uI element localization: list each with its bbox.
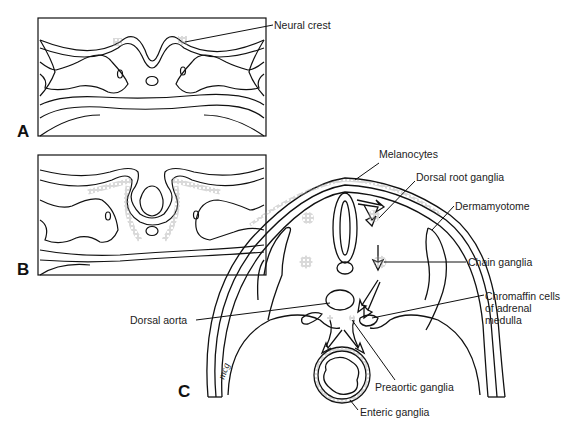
label-melanocytes: Melanocytes	[379, 148, 438, 160]
label-enteric-ganglia: Enteric ganglia	[360, 406, 429, 418]
panel-b-drawing	[38, 155, 266, 275]
label-chromaffin-line-2: of adrenal	[485, 302, 560, 314]
neural-crest-diagram: mcg	[0, 0, 582, 437]
label-chromaffin-line-3: medulla	[485, 314, 560, 326]
label-chromaffin-cells: Chromaffin cells of adrenal medulla	[485, 290, 560, 326]
neural-crest-leader	[185, 25, 273, 42]
panel-label-a: A	[17, 122, 29, 142]
label-preaortic-ganglia: Preaortic ganglia	[375, 381, 454, 393]
panel-label-c: C	[178, 382, 190, 402]
label-dorsal-aorta: Dorsal aorta	[130, 314, 187, 326]
leader-lines	[196, 163, 484, 410]
label-neural-crest: Neural crest	[274, 19, 331, 31]
label-dorsal-root-ganglia: Dorsal root ganglia	[416, 171, 504, 183]
panel-label-b: B	[17, 260, 29, 280]
label-chain-ganglia: Chain ganglia	[468, 256, 532, 268]
panel-a-drawing	[38, 18, 266, 136]
label-dermamyotome: Dermamyotome	[455, 200, 530, 212]
label-chromaffin-line-1: Chromaffin cells	[485, 290, 560, 302]
